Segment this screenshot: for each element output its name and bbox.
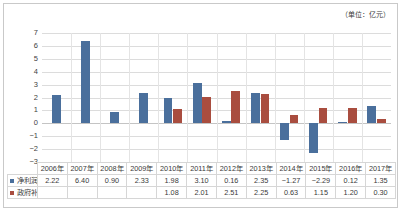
category-separator xyxy=(71,33,72,162)
bar-subsidy xyxy=(202,97,211,123)
table-cell: 1.98 xyxy=(157,175,187,187)
bar-subsidy xyxy=(348,108,357,123)
category-separator xyxy=(187,33,188,162)
bar-profit xyxy=(164,98,173,124)
legend-swatch-icon xyxy=(10,191,14,195)
y-axis-tick-label: 3 xyxy=(12,81,38,89)
table-cell: −1.27 xyxy=(276,175,306,187)
legend-item-profit: 净利润 xyxy=(8,175,38,187)
y-axis-tick-label: 0 xyxy=(12,120,38,128)
table-header-row: 2006年2007年2008年2009年2010年2011年2012年2013年… xyxy=(8,163,396,175)
table-row: 净利润2.226.400.902.331.983.100.162.35−1.27… xyxy=(8,175,396,187)
bar-profit xyxy=(110,112,119,124)
bar-profit xyxy=(81,41,90,124)
table-cell: 2.22 xyxy=(37,175,67,187)
table-cell xyxy=(97,187,127,199)
table-column-header: 2017年 xyxy=(366,163,396,175)
table-column-header: 2012年 xyxy=(216,163,246,175)
bar-subsidy xyxy=(290,115,299,123)
table-corner-cell xyxy=(8,163,38,175)
unit-annotation: （单位：亿元） xyxy=(341,9,390,19)
legend-label: 政府补贴 xyxy=(17,188,37,197)
data-table: 2006年2007年2008年2009年2010年2011年2012年2013年… xyxy=(7,162,396,199)
plot-area xyxy=(42,33,391,162)
table-column-header: 2007年 xyxy=(67,163,97,175)
bar-profit xyxy=(280,123,289,139)
bar-profit xyxy=(309,123,318,153)
chart-container: （单位：亿元） 76543210−1−2−3 2006年2007年2008年20… xyxy=(3,3,398,208)
table-cell: 1.35 xyxy=(366,175,396,187)
table-column-header: 2013年 xyxy=(246,163,276,175)
table-cell: 3.10 xyxy=(187,175,217,187)
y-axis-tick-label: 4 xyxy=(12,68,38,76)
category-separator xyxy=(304,33,305,162)
category-separator xyxy=(129,33,130,162)
category-separator xyxy=(275,33,276,162)
bar-profit xyxy=(139,93,148,123)
table-row: 政府补贴1.082.012.512.250.631.151.200.30 xyxy=(8,187,396,199)
table-column-header: 2011年 xyxy=(187,163,217,175)
bar-subsidy xyxy=(261,94,270,123)
table-cell xyxy=(67,187,97,199)
bar-profit xyxy=(338,122,347,124)
table-column-header: 2014年 xyxy=(276,163,306,175)
y-axis-tick-label: 7 xyxy=(12,29,38,37)
table-cell: 1.20 xyxy=(336,187,366,199)
category-separator xyxy=(333,33,334,162)
y-axis: 76543210−1−2−3 xyxy=(10,33,38,162)
bar-profit xyxy=(193,83,202,123)
bar-profit xyxy=(222,121,231,123)
data-table-body: 2006年2007年2008年2009年2010年2011年2012年2013年… xyxy=(8,163,396,199)
table-column-header: 2009年 xyxy=(127,163,157,175)
y-axis-tick-label: 1 xyxy=(12,107,38,115)
table-cell: 2.01 xyxy=(187,187,217,199)
table-cell: 1.08 xyxy=(157,187,187,199)
table-cell: 2.35 xyxy=(246,175,276,187)
bar-profit xyxy=(52,95,61,124)
table-cell: 2.25 xyxy=(246,187,276,199)
table-column-header: 2006年 xyxy=(37,163,67,175)
category-separator xyxy=(362,33,363,162)
table-column-header: 2015年 xyxy=(306,163,336,175)
y-axis-tick-label: 2 xyxy=(12,94,38,102)
category-separator xyxy=(100,33,101,162)
y-axis-tick-label: 6 xyxy=(12,42,38,50)
category-separator xyxy=(217,33,218,162)
y-axis-tick-label: −2 xyxy=(12,145,38,153)
table-column-header: 2010年 xyxy=(157,163,187,175)
bar-subsidy xyxy=(231,91,240,123)
table-column-header: 2016年 xyxy=(336,163,366,175)
table-cell: 1.15 xyxy=(306,187,336,199)
legend-swatch-icon xyxy=(10,179,14,183)
y-axis-tick-label: −1 xyxy=(12,132,38,140)
legend-item-subsidy: 政府补贴 xyxy=(8,187,38,199)
table-cell: 2.33 xyxy=(127,175,157,187)
category-separator xyxy=(158,33,159,162)
bar-subsidy xyxy=(173,109,182,123)
y-axis-tick-label: 5 xyxy=(12,55,38,63)
table-cell: −2.29 xyxy=(306,175,336,187)
bar-profit xyxy=(251,93,260,123)
bar-subsidy xyxy=(377,119,386,123)
table-cell: 0.90 xyxy=(97,175,127,187)
table-cell: 2.51 xyxy=(216,187,246,199)
table-column-header: 2008年 xyxy=(97,163,127,175)
legend-label: 净利润 xyxy=(17,176,37,185)
table-cell: 0.63 xyxy=(276,187,306,199)
bar-profit xyxy=(367,106,376,123)
table-cell: 0.16 xyxy=(216,175,246,187)
table-cell: 0.30 xyxy=(366,187,396,199)
category-separator xyxy=(246,33,247,162)
table-cell xyxy=(37,187,67,199)
table-cell xyxy=(127,187,157,199)
table-cell: 0.12 xyxy=(336,175,366,187)
bar-subsidy xyxy=(319,108,328,123)
table-cell: 6.40 xyxy=(67,175,97,187)
